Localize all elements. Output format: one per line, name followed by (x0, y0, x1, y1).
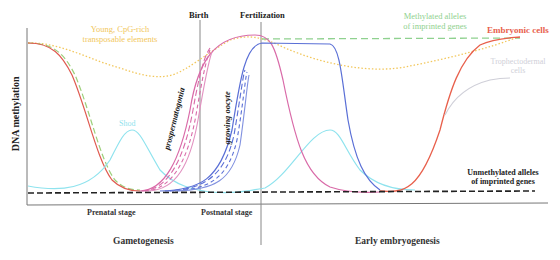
unmethylated-imprinted-line (28, 191, 535, 193)
trophectoderm-label-line2: cells (482, 66, 554, 75)
trophectoderm-label-line1: Trophectodermal (482, 57, 554, 66)
methylated-imprinted-label: Methylated alleles of imprinted genes (380, 12, 490, 32)
methylated-label-line2: of imprinted genes (380, 22, 490, 32)
embryonic-cells-label: Embryonic cells (487, 25, 549, 35)
unmethylated-label-line1: Unmethylated alleles (453, 168, 553, 177)
germline-green-curve (28, 43, 140, 190)
postnatal-stage-label: Postnatal stage (201, 208, 252, 217)
fertilization-label: Fertilization (240, 11, 285, 21)
trophectoderm-curve (445, 78, 510, 115)
unmethylated-label-line2: of imprinted genes (453, 177, 553, 186)
shod-label: Shod (119, 119, 135, 128)
growing-oocyte-label: growing oocyte (223, 83, 233, 153)
germline-red-curve (28, 43, 140, 191)
growing-oocyte-curve-1 (160, 43, 380, 191)
transposable-label-line2: transposable elements (64, 35, 176, 45)
transposable-elements-label: Young, CpG-rich transposable elements (64, 25, 176, 45)
early-embryogenesis-label: Early embryogenesis (355, 236, 440, 247)
gametogenesis-label: Gametogenesis (113, 236, 174, 247)
trophectoderm-label: Trophectodermal cells (482, 57, 554, 75)
prospermatogonia-curve-4 (148, 52, 212, 191)
unmethylated-imprinted-label: Unmethylated alleles of imprinted genes (453, 168, 553, 186)
birth-label: Birth (189, 11, 208, 21)
prenatal-stage-label: Prenatal stage (87, 208, 136, 217)
y-axis-label: DNA methylation (10, 64, 22, 164)
x-axis (27, 203, 548, 205)
methylated-imprinted-line (262, 38, 520, 39)
dna-methylation-diagram: DNA methylation Birth Fertilization Youn… (0, 0, 560, 260)
